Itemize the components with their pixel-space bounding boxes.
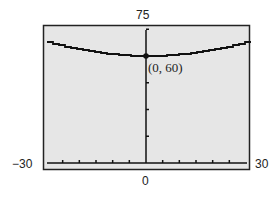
- xmax-label: 30: [255, 157, 268, 171]
- ymin-label: 0: [142, 174, 149, 188]
- graph-window: [0, 0, 280, 205]
- ymax-label: 75: [136, 8, 149, 22]
- xmin-label: −30: [12, 157, 32, 171]
- point-label: (0, 60): [148, 60, 183, 76]
- point-marker: [143, 53, 149, 59]
